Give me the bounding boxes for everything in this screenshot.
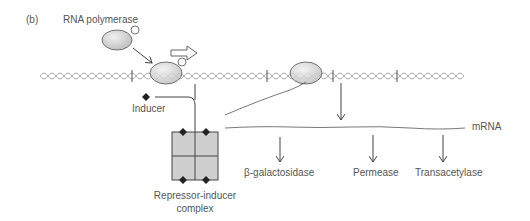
rna-polymerase-label: RNA polymerase <box>63 14 138 25</box>
repressor-inducer-complex-icon <box>172 128 218 184</box>
nascent-mrna <box>225 82 306 115</box>
dna-helix <box>40 73 464 79</box>
rna-polymerase-transcribing <box>290 62 322 84</box>
rna-polymerase-free <box>102 26 139 50</box>
protein-label-permease: Permease <box>353 167 399 178</box>
repressor-inducer-label-line1: Repressor-inducer <box>145 190 245 201</box>
protein-label-transacetylase: Transacetylase <box>415 167 482 178</box>
transcription-direction-arrow <box>171 46 197 60</box>
panel-label: (b) <box>26 14 38 25</box>
inducer-diamond-icon <box>142 93 150 101</box>
repressor-inducer-label-line2: complex <box>145 203 245 214</box>
inducer-label: Inducer <box>132 103 165 114</box>
rna-polymerase-bound <box>150 58 186 84</box>
mrna-label: mRNA <box>472 121 501 132</box>
polymerase-binding-arrow <box>133 48 152 63</box>
lac-operon-diagram <box>0 0 530 221</box>
mrna-strand <box>225 127 465 129</box>
protein-label-galactosidase: β-galactosidase <box>244 167 314 178</box>
